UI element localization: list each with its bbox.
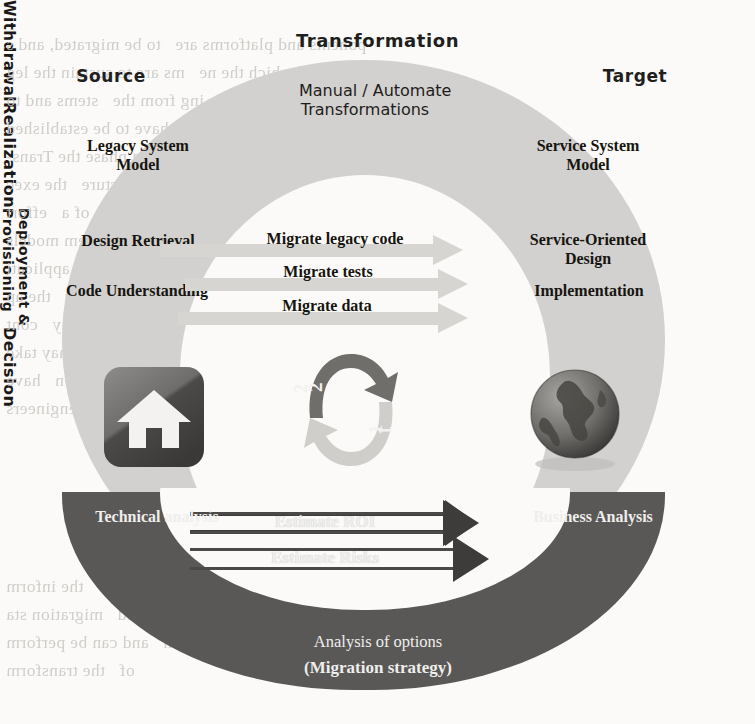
source-item-legacy-system-model: Legacy System Model bbox=[48, 136, 228, 174]
cycle-step-outer: 2 bbox=[291, 384, 312, 393]
migrate-arrow-label-legacy-code: Migrate legacy code bbox=[220, 230, 450, 248]
vertical-label-realization: Realization bbox=[0, 102, 19, 208]
decision-label-technical-analysis: Technical analysis bbox=[62, 508, 252, 526]
phase-label-target: Target bbox=[570, 66, 700, 86]
phase-label-source: Source bbox=[46, 66, 176, 86]
figure-canvas: ponents and platforms are to be migrated… bbox=[0, 0, 755, 724]
phase-label-manual-automate-transformations: Manual / Automate Transformations bbox=[255, 62, 475, 138]
manual-automate-text: Manual / Automate Transformations bbox=[299, 81, 451, 119]
target-item-service-oriented-design: Service-Oriented Design bbox=[498, 230, 678, 268]
decision-arrow-label-estimate-risks: Estimate Risks bbox=[230, 548, 420, 568]
decision-caption-line-2: (Migration strategy) bbox=[178, 658, 578, 678]
phase-label-transformation: Transformation bbox=[0, 30, 755, 51]
target-item-implementation: Implementation bbox=[494, 282, 684, 300]
decision-label-business-analysis: Business Analysis bbox=[498, 508, 688, 526]
cycle-step-inner: 1 bbox=[375, 426, 396, 435]
arrow-head-icon bbox=[438, 269, 468, 299]
house-icon bbox=[103, 366, 205, 468]
arrow-head-icon bbox=[438, 303, 468, 333]
decision-arrow-label-estimate-roi: Estimate ROI bbox=[230, 512, 420, 532]
vertical-label-deployment-provisioning: Deployment & Provisioning bbox=[0, 208, 32, 327]
migrate-arrow-label-tests: Migrate tests bbox=[228, 263, 428, 281]
arrow-head-icon bbox=[453, 536, 489, 582]
decision-caption-line-1: Analysis of options bbox=[178, 632, 578, 652]
globe-icon bbox=[520, 366, 630, 476]
vertical-label-decision: Decision bbox=[0, 327, 19, 408]
migrate-arrow-label-data: Migrate data bbox=[222, 297, 432, 315]
bleed-line-18: of the transform bbox=[6, 660, 135, 681]
target-item-service-system-model: Service System Model bbox=[498, 136, 678, 174]
circular-arrows-icon: 2 1 bbox=[288, 340, 414, 480]
